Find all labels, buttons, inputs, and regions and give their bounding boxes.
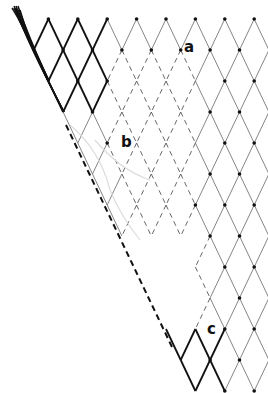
mesh-strand: [254, 205, 268, 236]
mesh-strand: [166, 143, 181, 174]
ghost-strand: [70, 125, 150, 240]
mesh-strand: [240, 236, 255, 267]
mesh-strand: [225, 329, 240, 360]
mesh-strand: [137, 50, 152, 81]
mesh-strand: [63, 50, 78, 81]
mesh-strand: [240, 267, 255, 298]
mesh-strand: [122, 81, 137, 112]
mesh-strand: [137, 143, 152, 174]
label-c: c: [207, 322, 216, 337]
mesh-strand: [63, 19, 78, 50]
mesh-strand: [181, 143, 196, 174]
mesh-knot: [105, 79, 109, 83]
mesh-knot: [208, 172, 212, 176]
mesh-strand: [240, 19, 255, 50]
mesh-strand: [166, 112, 181, 143]
mesh-strand: [254, 81, 268, 112]
mesh-knot: [252, 17, 256, 21]
mesh-strand: [166, 50, 181, 81]
mesh-strand: [122, 174, 137, 205]
mesh-knot: [223, 389, 227, 393]
mesh-strand: [93, 112, 108, 143]
mesh-strand: [48, 50, 63, 81]
mesh-strand: [254, 329, 268, 360]
mesh-strand: [254, 19, 268, 50]
mesh-knot: [150, 48, 154, 52]
mesh-knot: [47, 17, 51, 21]
mesh-strand: [78, 50, 93, 81]
mesh-strand: [181, 112, 196, 143]
mesh-strand: [210, 112, 225, 143]
mesh-strand: [78, 112, 93, 143]
mesh-knot: [238, 296, 242, 300]
mesh-strand: [93, 143, 108, 174]
mesh-strand: [181, 360, 196, 391]
mesh-strand: [107, 81, 122, 112]
label-a: a: [184, 40, 194, 55]
mesh-strand: [210, 205, 225, 236]
mesh-knot: [208, 234, 212, 238]
mesh-strand: [195, 50, 210, 81]
mesh-strand: [107, 112, 122, 143]
mesh-strand: [195, 174, 210, 205]
mesh-strand: [151, 112, 166, 143]
mesh-knot: [238, 172, 242, 176]
mesh-strand: [195, 143, 210, 174]
mesh-strand: [93, 19, 108, 50]
mesh-strand: [195, 112, 210, 143]
mesh-strand: [78, 19, 93, 50]
mesh-strand: [225, 50, 240, 81]
mesh-strand: [93, 174, 108, 205]
mesh-knot: [252, 203, 256, 207]
diagram-canvas: a b c: [0, 0, 268, 393]
mesh-strand: [254, 50, 268, 81]
mesh-strand: [181, 81, 196, 112]
mesh-strand: [195, 236, 210, 267]
mesh-strand: [166, 329, 181, 360]
mesh-strand: [122, 205, 137, 236]
mesh-knot: [208, 358, 212, 362]
mesh-knot: [76, 79, 80, 83]
mesh-knot: [105, 17, 109, 21]
mesh-knot: [135, 17, 139, 21]
mesh-strand: [63, 81, 78, 112]
mesh-knot: [223, 265, 227, 269]
mesh-strand: [210, 236, 225, 267]
mesh-strand: [240, 298, 255, 329]
mesh-strand: [151, 50, 166, 81]
mesh-knot: [252, 141, 256, 145]
mesh-strand: [181, 174, 196, 205]
mesh-strand: [107, 143, 122, 174]
mesh-strand: [254, 298, 268, 329]
mesh-strand: [195, 81, 210, 112]
mesh-strand: [181, 205, 196, 236]
mesh-strand: [137, 112, 152, 143]
mesh-strand: [195, 360, 210, 391]
mesh-strand: [240, 81, 255, 112]
mesh-strand: [137, 81, 152, 112]
mesh-knot: [238, 358, 242, 362]
mesh-strand: [151, 205, 166, 236]
mesh-strand: [254, 267, 268, 298]
mesh-strand: [225, 174, 240, 205]
mesh-knot: [238, 48, 242, 52]
mesh-strand: [107, 19, 122, 50]
mesh-knot: [223, 79, 227, 83]
mesh-strand: [240, 143, 255, 174]
mesh-knot: [194, 17, 198, 21]
mesh-strand: [166, 81, 181, 112]
mesh-strand: [225, 298, 240, 329]
mesh-knot: [208, 48, 212, 52]
mesh-knot: [194, 203, 198, 207]
mesh-strand: [225, 205, 240, 236]
mesh-knot: [120, 48, 124, 52]
mesh-knot: [252, 389, 256, 393]
mesh-strand: [225, 236, 240, 267]
mesh-strand: [240, 50, 255, 81]
mesh-strand: [107, 50, 122, 81]
mesh-strand: [225, 19, 240, 50]
mesh-strand: [225, 267, 240, 298]
mesh-strand: [210, 19, 225, 50]
mesh-strand: [210, 360, 225, 391]
mesh-knot: [105, 141, 109, 145]
